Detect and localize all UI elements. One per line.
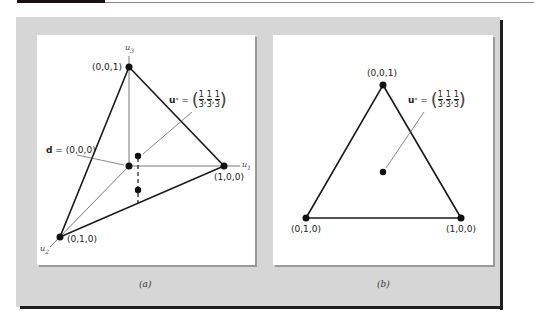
- vertex-001-dot-b: [380, 82, 387, 89]
- vertex-010-label-b: (0,1,0): [291, 224, 321, 234]
- centroid-dot: [380, 169, 386, 175]
- vertex-100-label-b: (1,0,0): [446, 224, 476, 234]
- vertex-001-label-b: (0,0,1): [367, 68, 397, 78]
- panel-b-diagram: [0, 0, 534, 320]
- caption-b: (b): [377, 279, 390, 289]
- vertex-100-dot-b: [458, 215, 465, 222]
- ustar-leader-line-b: [386, 112, 424, 168]
- ustar-label-b: u* = ( 13, 13, 13 ): [408, 90, 466, 109]
- vertex-010-dot-b: [303, 215, 310, 222]
